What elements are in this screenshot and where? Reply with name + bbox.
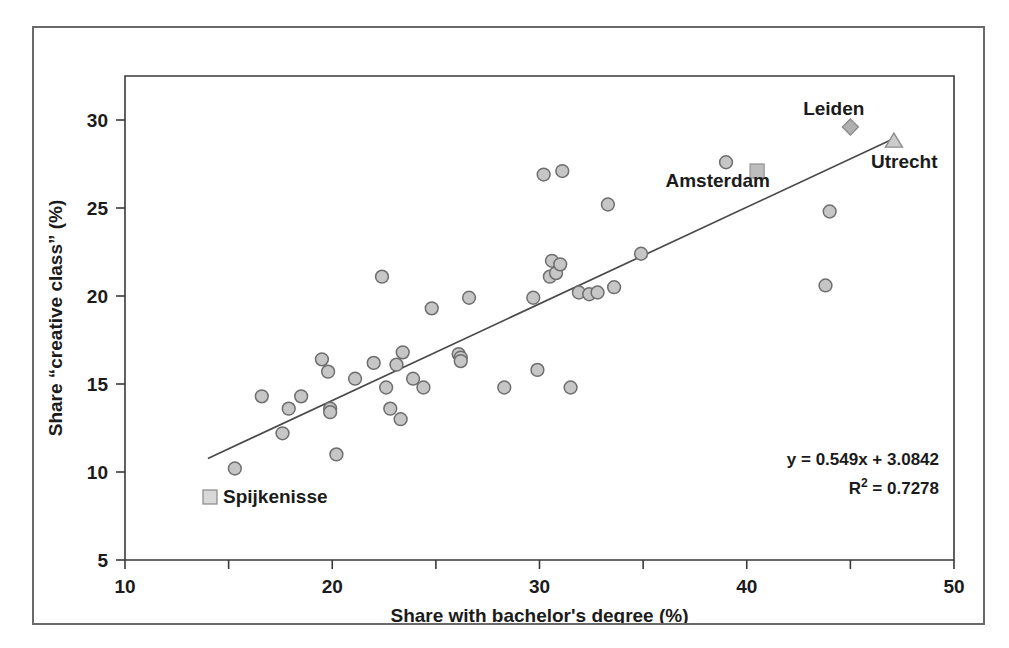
data-point-utrecht[interactable]: [885, 133, 902, 147]
y-axis-tick-label: 5: [97, 550, 108, 571]
data-point-dutch-cities[interactable]: [425, 302, 438, 315]
data-point-dutch-cities[interactable]: [454, 355, 467, 368]
data-point-dutch-cities[interactable]: [282, 402, 295, 415]
data-point-dutch-cities[interactable]: [608, 281, 621, 294]
figure-outer-frame: 102030405051015202530Share with bachelor…: [32, 26, 985, 625]
data-point-dutch-cities[interactable]: [376, 270, 389, 283]
annotation-label-amsterdam: Amsterdam: [665, 170, 770, 191]
data-point-dutch-cities[interactable]: [417, 381, 430, 394]
x-axis-tick-label: 50: [943, 576, 964, 597]
y-axis-tick-label: 30: [87, 110, 108, 131]
data-point-dutch-cities[interactable]: [498, 381, 511, 394]
data-point-dutch-cities[interactable]: [396, 346, 409, 359]
data-point-dutch-cities[interactable]: [407, 372, 420, 385]
x-axis-title: Share with bachelor's degree (%): [390, 605, 688, 623]
data-point-dutch-cities[interactable]: [367, 356, 380, 369]
legend-marker-spijkenisse[interactable]: [203, 490, 217, 504]
annotation-label-leiden: Leiden: [803, 98, 864, 119]
trendline: [208, 140, 892, 459]
data-point-dutch-cities[interactable]: [330, 448, 343, 461]
data-point-dutch-cities[interactable]: [315, 353, 328, 366]
data-point-dutch-cities[interactable]: [537, 168, 550, 181]
data-point-dutch-cities[interactable]: [527, 291, 540, 304]
data-point-dutch-cities[interactable]: [564, 381, 577, 394]
data-point-dutch-cities[interactable]: [384, 402, 397, 415]
data-point-dutch-cities[interactable]: [228, 462, 241, 475]
data-point-dutch-cities[interactable]: [591, 286, 604, 299]
data-point-dutch-cities[interactable]: [635, 247, 648, 260]
data-point-dutch-cities[interactable]: [823, 205, 836, 218]
data-point-dutch-cities[interactable]: [380, 381, 393, 394]
y-axis-tick-label: 20: [87, 286, 108, 307]
trendline-equation: y = 0.549x + 3.0842: [787, 450, 939, 469]
data-point-dutch-cities[interactable]: [390, 358, 403, 371]
data-point-dutch-cities[interactable]: [554, 258, 567, 271]
x-axis-tick-label: 20: [322, 576, 343, 597]
data-point-dutch-cities[interactable]: [819, 279, 832, 292]
x-axis-tick-label: 30: [529, 576, 550, 597]
annotation-label-utrecht: Utrecht: [871, 151, 938, 172]
data-point-dutch-cities[interactable]: [349, 372, 362, 385]
data-point-dutch-cities[interactable]: [601, 198, 614, 211]
trendline-r2: R2 = 0.7278: [849, 476, 939, 498]
legend-label-spijkenisse: Spijkenisse: [223, 486, 328, 507]
y-axis-title: Share “creative class” (%): [45, 200, 66, 437]
data-point-dutch-cities[interactable]: [322, 365, 335, 378]
y-axis-tick-label: 25: [87, 198, 109, 219]
data-point-dutch-cities[interactable]: [255, 390, 268, 403]
data-point-dutch-cities[interactable]: [556, 165, 569, 178]
x-axis-tick-label: 40: [736, 576, 757, 597]
x-axis-tick-label: 10: [114, 576, 135, 597]
data-point-dutch-cities[interactable]: [531, 364, 544, 377]
data-point-dutch-cities[interactable]: [394, 413, 407, 426]
data-point-dutch-cities[interactable]: [720, 156, 733, 169]
data-point-dutch-cities[interactable]: [276, 427, 289, 440]
data-point-dutch-cities[interactable]: [295, 390, 308, 403]
y-axis-tick-label: 15: [87, 374, 109, 395]
y-axis-tick-label: 10: [87, 462, 108, 483]
data-point-dutch-cities[interactable]: [463, 291, 476, 304]
data-point-leiden[interactable]: [842, 119, 858, 135]
scatter-chart: 102030405051015202530Share with bachelor…: [34, 28, 983, 623]
data-point-dutch-cities[interactable]: [324, 406, 337, 419]
